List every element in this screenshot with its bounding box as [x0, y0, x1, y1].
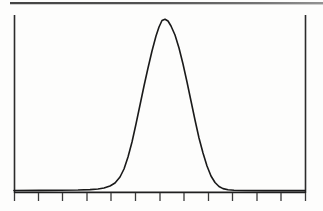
figure-root	[0, 0, 323, 211]
gaussian-peak-curve	[14, 19, 305, 190]
peak-plot-chart	[0, 0, 323, 211]
x-axis-tick-group	[15, 193, 306, 201]
